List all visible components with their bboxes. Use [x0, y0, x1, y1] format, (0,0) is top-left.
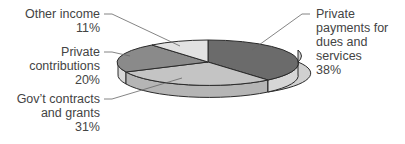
label-private-contributions: Private contributions 20% [29, 45, 100, 87]
label-text: Private [316, 7, 388, 21]
label-private-payments: Private payments for dues and services 3… [316, 7, 388, 77]
label-pct: 31% [17, 120, 100, 134]
label-text: contributions [29, 59, 100, 73]
label-pct: 38% [316, 63, 388, 77]
label-pct: 11% [25, 21, 100, 35]
label-text: Gov’t contracts [17, 92, 100, 106]
label-text: services [316, 49, 388, 63]
label-pct: 20% [29, 73, 100, 87]
label-text: Private [29, 45, 100, 59]
pie-top [117, 40, 298, 85]
label-text: payments for [316, 21, 388, 35]
label-text: dues and [316, 35, 388, 49]
label-text: and grants [17, 106, 100, 120]
label-other-income: Other income 11% [25, 7, 100, 35]
label-text: Other income [25, 7, 100, 21]
label-govt-contracts: Gov’t contracts and grants 31% [17, 92, 100, 134]
